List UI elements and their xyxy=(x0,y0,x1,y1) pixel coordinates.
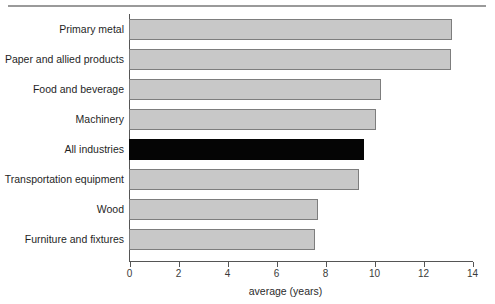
bar xyxy=(129,19,452,40)
bar-row: Machinery xyxy=(0,109,495,130)
x-tick xyxy=(473,262,474,267)
bar xyxy=(129,199,318,220)
x-tick-label: 6 xyxy=(262,268,292,280)
x-tick xyxy=(277,262,278,267)
x-tick-label: 12 xyxy=(409,268,439,280)
x-axis-title-text: average (years) xyxy=(249,285,323,297)
x-axis-line xyxy=(129,261,473,262)
category-label: Machinery xyxy=(0,112,124,126)
x-tick-label: 0 xyxy=(115,268,145,280)
bar xyxy=(129,139,364,160)
category-label: Primary metal xyxy=(0,22,124,36)
x-tick xyxy=(424,262,425,267)
x-tick xyxy=(130,262,131,267)
bar-row: Wood xyxy=(0,199,495,220)
x-tick-label: 4 xyxy=(213,268,243,280)
x-tick xyxy=(326,262,327,267)
bar-row: Transportation equipment xyxy=(0,169,495,190)
x-tick xyxy=(179,262,180,267)
category-label: Wood xyxy=(0,202,124,216)
x-tick-label: 10 xyxy=(360,268,390,280)
x-tick-label: 2 xyxy=(164,268,194,280)
bar xyxy=(129,169,359,190)
bar-row: Paper and allied products xyxy=(0,49,495,70)
x-tick-label: 14 xyxy=(458,268,488,280)
category-label: All industries xyxy=(0,142,124,156)
bar xyxy=(129,49,451,70)
category-label: Paper and allied products xyxy=(0,52,124,66)
bar-row: Furniture and fixtures xyxy=(0,229,495,250)
x-tick xyxy=(375,262,376,267)
category-label: Furniture and fixtures xyxy=(0,232,124,246)
bar xyxy=(129,229,315,250)
plot-area: 02468101214 Primary metalPaper and allie… xyxy=(0,0,495,304)
category-label: Food and beverage xyxy=(0,82,124,96)
x-tick-label: 8 xyxy=(311,268,341,280)
category-label: Transportation equipment xyxy=(0,172,124,186)
bar-row: Primary metal xyxy=(0,19,495,40)
x-tick xyxy=(228,262,229,267)
bar xyxy=(129,109,376,130)
bar-chart: 02468101214 Primary metalPaper and allie… xyxy=(0,0,495,304)
bar-row: Food and beverage xyxy=(0,79,495,100)
bar-row: All industries xyxy=(0,139,495,160)
bar xyxy=(129,79,381,100)
x-axis-title: average (years) xyxy=(0,285,495,297)
